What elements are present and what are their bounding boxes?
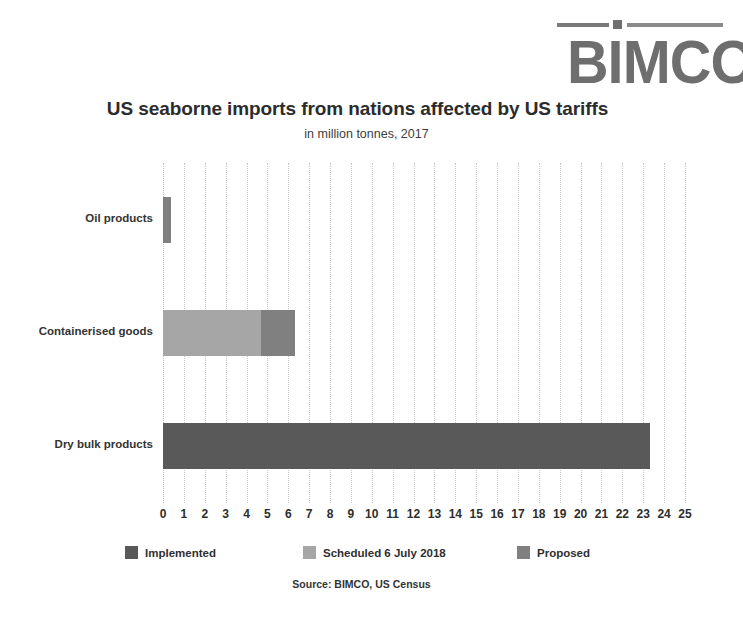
x-tick-label-23: 23 — [637, 507, 650, 521]
bar-stack — [163, 310, 295, 356]
x-tick-label-3: 3 — [222, 507, 229, 521]
x-tick-label-21: 21 — [595, 507, 608, 521]
bar-segment[interactable] — [163, 423, 650, 469]
x-tick-label-5: 5 — [264, 507, 271, 521]
x-tick-label-19: 19 — [553, 507, 566, 521]
bar-segment[interactable] — [261, 310, 294, 356]
x-tick-label-7: 7 — [306, 507, 313, 521]
plot-area — [163, 163, 685, 503]
x-tick-label-1: 1 — [181, 507, 188, 521]
x-tick-label-18: 18 — [532, 507, 545, 521]
legend-label: Proposed — [537, 547, 590, 559]
legend-swatch-proposed — [517, 546, 530, 559]
x-tick-label-22: 22 — [616, 507, 629, 521]
source-note: Source: BIMCO, US Census — [0, 578, 743, 590]
bar-segment[interactable] — [163, 197, 171, 243]
bar-segment[interactable] — [163, 310, 261, 356]
x-tick-label-4: 4 — [243, 507, 250, 521]
x-tick-label-6: 6 — [285, 507, 292, 521]
legend-swatch-implemented — [125, 546, 138, 559]
x-tick-label-25: 25 — [678, 507, 691, 521]
x-tick-label-10: 10 — [365, 507, 378, 521]
legend-item[interactable]: Scheduled 6 July 2018 — [303, 546, 446, 559]
category-label: Dry bulk products — [55, 438, 153, 450]
x-tick-label-20: 20 — [574, 507, 587, 521]
legend-item[interactable]: Proposed — [517, 546, 590, 559]
x-tick-label-9: 9 — [348, 507, 355, 521]
x-tick-label-14: 14 — [449, 507, 462, 521]
x-tick-label-16: 16 — [490, 507, 503, 521]
bar-row[interactable] — [163, 423, 685, 469]
x-tick-label-13: 13 — [428, 507, 441, 521]
legend-item[interactable]: Implemented — [125, 546, 216, 559]
x-tick-label-2: 2 — [201, 507, 208, 521]
x-tick-label-24: 24 — [657, 507, 670, 521]
chart-plot-wrapper: Oil productsContainerised goodsDry bulk … — [0, 0, 743, 625]
category-label: Oil products — [85, 212, 153, 224]
x-tick-label-11: 11 — [386, 507, 399, 521]
bar-row[interactable] — [163, 197, 685, 243]
x-tick-label-15: 15 — [470, 507, 483, 521]
x-tick-label-0: 0 — [160, 507, 167, 521]
x-tick-label-12: 12 — [407, 507, 420, 521]
x-axis-tick-labels: 0123456789101112131415161718192021222324… — [163, 507, 685, 525]
x-tick-label-8: 8 — [327, 507, 334, 521]
bar-stack — [163, 197, 171, 243]
legend-swatch-scheduled — [303, 546, 316, 559]
bar-row[interactable] — [163, 310, 685, 356]
legend-label: Scheduled 6 July 2018 — [323, 547, 446, 559]
gridline-25 — [685, 163, 687, 503]
legend-label: Implemented — [145, 547, 216, 559]
category-label: Containerised goods — [39, 325, 153, 337]
chart-legend: ImplementedScheduled 6 July 2018Proposed — [0, 546, 743, 568]
x-tick-label-17: 17 — [511, 507, 524, 521]
bar-stack — [163, 423, 650, 469]
